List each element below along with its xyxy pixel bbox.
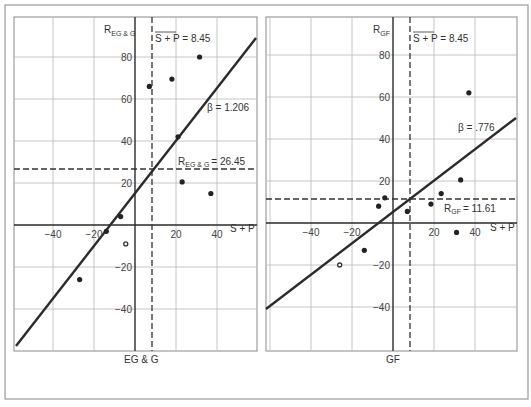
data-point bbox=[197, 54, 202, 59]
left-data-points bbox=[77, 54, 213, 282]
x-tick-label: −20 bbox=[344, 227, 361, 238]
data-point bbox=[77, 277, 82, 282]
left-regression-line bbox=[16, 38, 256, 346]
data-point bbox=[458, 177, 463, 182]
left-panel-title: EG & G bbox=[124, 354, 159, 365]
left-y-axis-label: REG & G bbox=[104, 24, 135, 37]
left-mean-y-label: REG & G= 26.45 bbox=[178, 156, 245, 168]
data-point bbox=[439, 191, 444, 196]
data-point bbox=[454, 230, 459, 235]
y-tick-label: 20 bbox=[379, 176, 391, 187]
right-panel-gf: −40−20204080604020−20−40 RGF S + P = 8.4… bbox=[266, 17, 517, 365]
data-point bbox=[118, 214, 123, 219]
data-point bbox=[124, 242, 128, 246]
x-tick-label: −40 bbox=[303, 227, 320, 238]
y-tick-label: 40 bbox=[121, 136, 133, 147]
y-tick-label: −20 bbox=[373, 260, 390, 271]
data-point bbox=[104, 229, 109, 234]
y-tick-label: −40 bbox=[115, 304, 132, 315]
right-data-points bbox=[338, 90, 472, 267]
x-tick-label: 20 bbox=[170, 229, 182, 240]
x-tick-label: 40 bbox=[211, 229, 223, 240]
left-beta-label: β = 1.206 bbox=[207, 102, 250, 113]
y-tick-label: −40 bbox=[373, 302, 390, 313]
x-tick-label: 40 bbox=[469, 227, 481, 238]
x-tick-label: −20 bbox=[86, 229, 103, 240]
y-tick-label: 80 bbox=[379, 50, 391, 61]
data-point bbox=[208, 191, 213, 196]
data-point bbox=[428, 202, 433, 207]
x-tick-label: 20 bbox=[428, 227, 440, 238]
data-point bbox=[169, 76, 174, 81]
right-y-axis-label: RGF bbox=[373, 24, 390, 37]
y-tick-label: −20 bbox=[115, 262, 132, 273]
left-mean-x-label: S + P = 8.45 bbox=[155, 33, 211, 44]
data-point bbox=[382, 195, 387, 200]
y-tick-label: 60 bbox=[121, 94, 133, 105]
data-point bbox=[338, 263, 342, 267]
data-point bbox=[175, 134, 180, 139]
left-x-axis-label: S + P bbox=[230, 223, 255, 234]
y-tick-label: 20 bbox=[121, 178, 133, 189]
y-tick-label: 60 bbox=[379, 92, 391, 103]
data-point bbox=[376, 204, 381, 209]
data-point bbox=[147, 84, 152, 89]
right-panel-title: GF bbox=[386, 354, 400, 365]
right-plot-box bbox=[266, 17, 517, 351]
chart-canvas: −40−20204080604020−20−40 REG & G S + P =… bbox=[0, 0, 531, 407]
data-point bbox=[362, 248, 367, 253]
y-tick-label: 80 bbox=[121, 52, 133, 63]
right-beta-label: β = .776 bbox=[458, 122, 495, 133]
right-gridlines bbox=[266, 17, 517, 351]
data-point bbox=[180, 179, 185, 184]
right-x-axis-label: S + P bbox=[490, 222, 515, 233]
right-tick-labels: −40−20204080604020−20−40 bbox=[303, 50, 481, 313]
y-tick-label: 40 bbox=[379, 134, 391, 145]
data-point bbox=[405, 209, 410, 214]
left-panel-eg-g: −40−20204080604020−20−40 REG & G S + P =… bbox=[14, 17, 257, 365]
data-point bbox=[466, 90, 471, 95]
right-mean-y-label: RGF= 11.61 bbox=[444, 203, 496, 215]
right-mean-x-label: S + P = 8.45 bbox=[413, 33, 469, 44]
x-tick-label: −40 bbox=[45, 229, 62, 240]
